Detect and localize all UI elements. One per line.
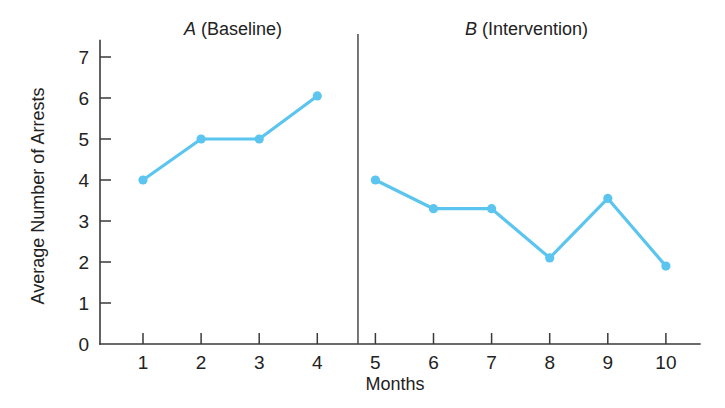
phase-titles-group: A (Baseline)B (Intervention) [183, 19, 588, 39]
data-point [487, 204, 496, 213]
x-axis-tick-labels: 12345678910 [138, 352, 677, 373]
data-series-group [138, 91, 670, 270]
chart-figure: 01234567 12345678910 A (Baseline)B (Inte… [0, 0, 725, 408]
chart-canvas: 01234567 12345678910 A (Baseline)B (Inte… [0, 0, 725, 408]
x-axis-title: Months [365, 374, 424, 394]
phase-b-letter: B [465, 19, 477, 39]
x-tick-label: 8 [544, 352, 555, 373]
x-axis-ticks [143, 333, 666, 344]
data-point [313, 91, 322, 100]
data-point [429, 204, 438, 213]
y-tick-label: 5 [78, 129, 89, 150]
x-tick-label: 3 [254, 352, 265, 373]
data-point [603, 194, 612, 203]
y-tick-label: 7 [78, 47, 89, 68]
y-tick-label: 1 [78, 293, 89, 314]
data-point [545, 253, 554, 262]
y-tick-label: 4 [78, 170, 89, 191]
data-point [661, 262, 670, 271]
x-tick-label: 4 [312, 352, 323, 373]
y-tick-label: 6 [78, 88, 89, 109]
data-point [138, 175, 147, 184]
series-line [375, 180, 666, 266]
x-tick-label: 1 [138, 352, 149, 373]
phase-b-intervention [371, 175, 671, 270]
data-point [255, 134, 264, 143]
series-line [143, 96, 317, 180]
y-tick-label: 0 [78, 334, 89, 355]
y-axis-ticks [100, 57, 111, 303]
x-tick-label: 2 [196, 352, 207, 373]
phase-a-baseline [138, 91, 322, 184]
x-tick-label: 7 [486, 352, 497, 373]
x-tick-label: 6 [428, 352, 439, 373]
y-axis-title: Average Number of Arrests [28, 88, 48, 305]
phase-b-label: (Intervention) [477, 19, 588, 39]
y-axis-tick-labels: 01234567 [78, 47, 89, 355]
phase-a-title: A (Baseline) [183, 19, 282, 39]
y-tick-label: 3 [78, 211, 89, 232]
phase-a-label: (Baseline) [196, 19, 282, 39]
phase-b-title: B (Intervention) [465, 19, 588, 39]
data-point [371, 175, 380, 184]
x-tick-label: 5 [370, 352, 381, 373]
phase-a-letter: A [183, 19, 196, 39]
data-point [197, 134, 206, 143]
x-tick-label: 10 [655, 352, 676, 373]
y-tick-label: 2 [78, 252, 89, 273]
x-tick-label: 9 [603, 352, 614, 373]
